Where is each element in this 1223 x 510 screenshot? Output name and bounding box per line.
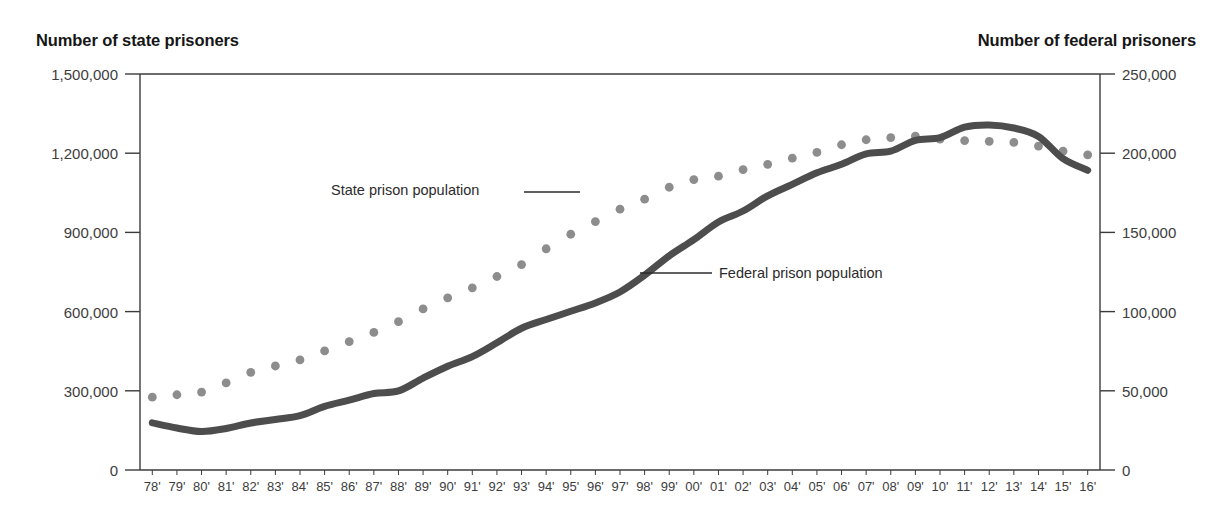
- x-axis-tick-label: 08': [882, 480, 899, 493]
- series-state-prison-population: [148, 132, 1092, 402]
- left-axis-tick-label: 0: [110, 463, 118, 478]
- prison-population-chart: Number of state prisoners Number of fede…: [0, 0, 1223, 510]
- right-axis-tick-label: 0: [1122, 463, 1130, 478]
- x-axis-tick-label: 12': [981, 480, 998, 493]
- left-axis-tick-label: 600,000: [64, 304, 118, 319]
- left-axis-tick-label: 1,500,000: [51, 67, 118, 82]
- x-axis-tick-label: 94': [538, 480, 555, 493]
- x-axis-tick-label: 07': [858, 480, 875, 493]
- x-axis-tick-label: 80': [193, 480, 210, 493]
- series-federal-prison-population: [152, 125, 1087, 432]
- x-axis-tick-label: 06': [833, 480, 850, 493]
- x-axis-tick-label: 15': [1055, 480, 1072, 493]
- x-axis-tick-label: 95': [562, 480, 579, 493]
- x-axis-tick-label: 00': [685, 480, 702, 493]
- x-axis-tick-label: 05': [808, 480, 825, 493]
- left-axis-title: Number of state prisoners: [36, 31, 239, 50]
- x-axis-tick-label: 03': [759, 480, 776, 493]
- x-axis-tick-label: 11': [957, 480, 973, 493]
- x-axis-tick-label: 84': [292, 480, 309, 493]
- axes: [125, 74, 1115, 475]
- right-axis-tick-label: 100,000: [1122, 304, 1176, 319]
- x-axis-tick-label: 83': [267, 480, 284, 493]
- right-axis-tick-label: 150,000: [1122, 225, 1176, 240]
- right-axis-title: Number of federal prisoners: [978, 31, 1196, 50]
- x-axis-tick-label: 09': [907, 480, 924, 493]
- x-axis-tick-label: 92': [488, 480, 505, 493]
- x-axis-tick-label: 01': [710, 480, 727, 493]
- left-axis-tick-label: 300,000: [64, 383, 118, 398]
- x-axis-tick-label: 93': [513, 480, 530, 493]
- x-axis-tick-label: 10': [932, 480, 949, 493]
- x-axis-tick-label: 04': [784, 480, 801, 493]
- state-series-annotation: State prison population: [331, 183, 479, 198]
- right-axis-tick-label: 50,000: [1122, 383, 1168, 398]
- x-axis-tick-label: 91': [464, 480, 481, 493]
- right-axis-tick-label: 250,000: [1122, 67, 1176, 82]
- data-series: [148, 125, 1092, 432]
- x-axis-tick-label: 89': [415, 480, 432, 493]
- x-axis-tick-label: 82': [242, 480, 259, 493]
- x-axis-tick-label: 96': [587, 480, 604, 493]
- x-axis-tick-label: 81': [218, 480, 235, 493]
- x-axis-tick-label: 79': [168, 480, 185, 493]
- left-axis-tick-label: 1,200,000: [51, 146, 118, 161]
- plot-canvas: [0, 0, 1223, 510]
- annotation-leader-lines: [524, 192, 712, 273]
- x-axis-tick-label: 16': [1079, 480, 1096, 493]
- x-axis-tick-label: 13': [1005, 480, 1022, 493]
- x-axis-tick-label: 78': [144, 480, 161, 493]
- x-axis-tick-label: 98': [636, 480, 653, 493]
- x-axis-tick-label: 85': [316, 480, 333, 493]
- x-axis-tick-label: 14': [1030, 480, 1047, 493]
- x-axis-tick-label: 86': [341, 480, 358, 493]
- x-axis-tick-label: 97': [612, 480, 629, 493]
- x-axis-tick-label: 88': [390, 480, 407, 493]
- x-axis-tick-label: 90': [439, 480, 456, 493]
- x-axis-tick-label: 87': [365, 480, 382, 493]
- x-axis-tick-label: 02': [735, 480, 752, 493]
- left-axis-tick-label: 900,000: [64, 225, 118, 240]
- right-axis-tick-label: 200,000: [1122, 146, 1176, 161]
- x-axis-tick-label: 99': [661, 480, 678, 493]
- federal-series-annotation: Federal prison population: [719, 266, 883, 281]
